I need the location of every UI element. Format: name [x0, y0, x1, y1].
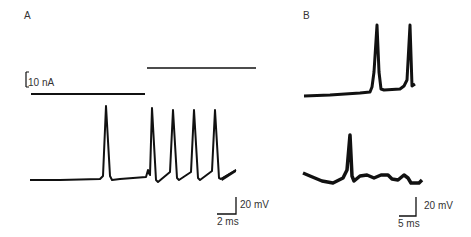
panel-b-bottom-trace: [303, 135, 422, 183]
panel-a-voltage-trace: [30, 106, 236, 182]
current-scale-bar: [26, 72, 29, 87]
panel-a-scale-bar: [217, 197, 236, 214]
panel-b-scale-bar: [399, 197, 416, 216]
figure-traces: [0, 0, 471, 237]
panel-b-top-trace: [304, 25, 415, 96]
